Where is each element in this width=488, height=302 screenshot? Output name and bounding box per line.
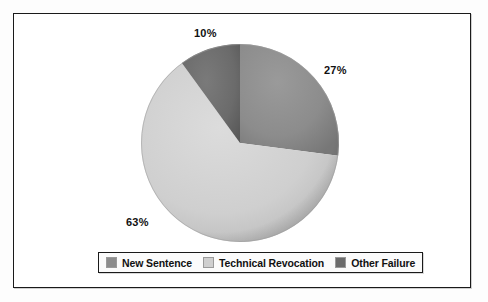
data-label-new-sentence: 27% [324, 64, 347, 76]
data-label-technical-revocation: 63% [126, 216, 149, 228]
legend-item-new-sentence[interactable]: New Sentence [106, 257, 192, 269]
data-label-other-failure: 10% [194, 27, 217, 39]
legend-swatch-icon-other-failure [335, 257, 346, 268]
legend-label-new-sentence: New Sentence [122, 257, 192, 269]
legend-label-other-failure: Other Failure [351, 257, 415, 269]
plot-frame [13, 13, 471, 288]
chart-legend: New Sentence Technical Revocation Other … [98, 252, 423, 273]
legend-swatch-icon-technical-revocation [203, 257, 214, 268]
legend-item-technical-revocation[interactable]: Technical Revocation [203, 257, 324, 269]
pie-chart-figure: 10% 27% 63% New Sentence Technical Revoc… [0, 0, 488, 302]
legend-swatch-icon-new-sentence [106, 257, 117, 268]
legend-item-other-failure[interactable]: Other Failure [335, 257, 415, 269]
legend-label-technical-revocation: Technical Revocation [219, 257, 324, 269]
